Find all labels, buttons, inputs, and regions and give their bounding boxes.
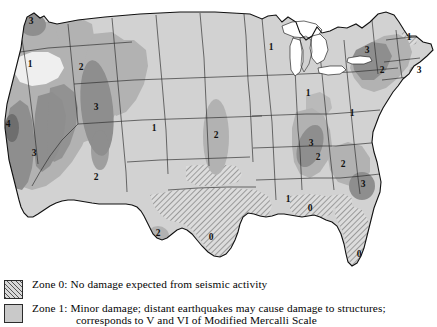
legend-row-zone-0: Zone 0: No damage expected from seismic … <box>0 279 437 299</box>
zone-label-ca-4: 4 <box>6 119 11 129</box>
legend-label-zone-0: Zone 0: No damage expected from seismic … <box>32 279 267 291</box>
legend-swatch-zone-0 <box>4 280 23 299</box>
zone-label-mid-atl-1: 1 <box>350 108 355 118</box>
zone-label-id-2: 2 <box>79 62 84 72</box>
zone-label-tn-2: 2 <box>316 152 321 162</box>
zone-label-ms-1: 1 <box>286 194 291 204</box>
legend-zone-1-line2: corresponds to V and VI of Modified Merc… <box>76 315 386 327</box>
legend-zone-1-line1: Zone 1: Minor damage; distant earthquake… <box>32 302 386 314</box>
legend-swatch-zone-1 <box>4 304 23 323</box>
zone-label-la-0: 0 <box>308 203 313 213</box>
legend-zone-0-line1: Zone 0: No damage expected from seismic … <box>32 278 267 290</box>
us-seismic-zone-map: 3131223311211243322310200 <box>0 0 437 275</box>
zone-label-sc-3: 3 <box>361 179 366 189</box>
zone-label-ca-3: 3 <box>32 148 37 158</box>
zone-label-fl-0: 0 <box>357 249 362 259</box>
legend-label-zone-1: Zone 1: Minor damage; distant earthquake… <box>32 303 386 326</box>
zone-label-tx-0: 0 <box>209 232 214 242</box>
zone-label-gl-1: 1 <box>269 42 274 52</box>
zone-label-me-1: 1 <box>407 32 412 42</box>
zone-label-ne-3: 3 <box>417 65 422 75</box>
zone-label-nm-2: 2 <box>94 172 99 182</box>
zone-label-mt-3: 3 <box>94 102 99 112</box>
zone-label-nm-3: 3 <box>309 138 314 148</box>
zone-fills <box>0 0 437 275</box>
zone-label-oh-1: 1 <box>306 88 311 98</box>
zone-label-or-1: 1 <box>28 59 33 69</box>
zone-label-ks-2: 2 <box>214 130 219 140</box>
legend-row-zone-1: Zone 1: Minor damage; distant earthquake… <box>0 303 437 326</box>
zone-label-ny-3: 3 <box>365 45 370 55</box>
zone-label-va-2: 2 <box>341 159 346 169</box>
seismic-zone-legend: Zone 0: No damage expected from seismic … <box>0 275 437 327</box>
map-graphic: 3131223311211243322310200 <box>0 0 437 275</box>
zone-label-wa-puget-3: 3 <box>29 16 34 26</box>
zone-label-co-1: 1 <box>152 123 157 133</box>
zone-label-wtx-2: 2 <box>156 228 161 238</box>
zone-label-ny-2: 2 <box>380 65 385 75</box>
